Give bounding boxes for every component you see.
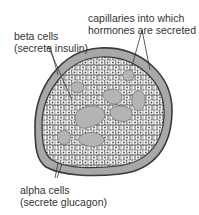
capillaries-label-line2: hormones are secreted [88, 24, 196, 36]
beta-cells-label-line2: (secrete insulin) [14, 42, 88, 54]
beta-cells-label: beta cells (secrete insulin) [14, 30, 88, 54]
alpha-cells-label: alpha cells (secrete glucagon) [20, 184, 107, 208]
capillaries-label: capillaries into which hormones are secr… [88, 12, 196, 36]
beta-cells-label-line1: beta cells [14, 30, 88, 42]
alpha-cells-label-line1: alpha cells [20, 184, 107, 196]
alpha-cells-label-line2: (secrete glucagon) [20, 196, 107, 208]
capillaries-label-line1: capillaries into which [88, 12, 196, 24]
